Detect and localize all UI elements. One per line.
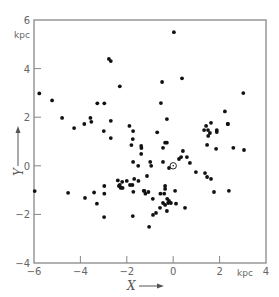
data-point [205, 175, 209, 179]
data-point [118, 84, 122, 88]
data-point [185, 155, 189, 159]
data-point [241, 91, 245, 95]
x-axis-arrowhead-icon [157, 284, 164, 289]
data-point [174, 202, 178, 206]
axis-ticks [34, 69, 220, 263]
data-point [143, 189, 147, 193]
data-point [163, 203, 167, 207]
data-point [102, 184, 106, 188]
data-point [33, 189, 37, 193]
data-point [121, 186, 125, 190]
data-point [136, 164, 140, 168]
x-tick-label: 0 [170, 266, 176, 277]
x-axis-title: X [126, 279, 164, 293]
data-point [145, 174, 149, 178]
data-point [162, 192, 166, 196]
data-point [180, 76, 184, 80]
data-point [202, 128, 206, 132]
data-point [226, 122, 230, 126]
y-axis-arrowhead-icon [16, 126, 21, 133]
y-tick-label: 2 [24, 112, 30, 123]
data-point [109, 59, 113, 63]
data-point [131, 214, 135, 218]
data-point [102, 129, 106, 133]
data-point [72, 126, 76, 130]
data-point [95, 202, 99, 206]
data-point [109, 136, 113, 140]
data-point [205, 143, 209, 147]
data-point [158, 206, 162, 210]
data-point [163, 187, 167, 191]
y-tick-label: 4 [24, 64, 30, 75]
data-point [215, 130, 219, 134]
data-point [203, 171, 207, 175]
data-point [161, 146, 165, 150]
y-tick-label: 6 [24, 15, 30, 26]
data-point [188, 161, 192, 165]
data-point [204, 124, 208, 128]
data-point [132, 177, 136, 181]
sun-symbol-icon [170, 163, 176, 169]
data-point [131, 137, 135, 141]
data-point [37, 92, 41, 96]
data-point [183, 206, 187, 210]
data-point [139, 144, 143, 148]
data-point [131, 160, 135, 164]
data-point [149, 164, 153, 168]
data-point [151, 197, 155, 201]
data-point [151, 213, 155, 217]
y-unit-label: kpc [14, 30, 30, 40]
x-tick-label: 2 [216, 266, 222, 277]
data-point [172, 30, 176, 34]
x-tick-label: −4 [73, 266, 88, 277]
data-point [116, 179, 120, 183]
data-point [223, 110, 227, 114]
data-point [60, 116, 64, 120]
x-tick-label: −2 [119, 266, 134, 277]
data-point [137, 179, 141, 183]
y-tick-label: −2 [15, 209, 30, 220]
data-point [109, 119, 113, 123]
x-tick-label: 4 [263, 266, 269, 277]
data-point [163, 141, 167, 145]
data-point [206, 134, 210, 138]
data-point [95, 101, 99, 105]
data-point [118, 183, 122, 187]
data-point [148, 160, 152, 164]
data-point [66, 191, 70, 195]
data-point [83, 196, 87, 200]
y-axis-title: Y [12, 126, 26, 176]
data-point [209, 121, 213, 125]
data-point [173, 189, 177, 193]
data-point [125, 179, 129, 183]
data-point [89, 116, 93, 120]
data-point [92, 191, 96, 195]
data-point [131, 183, 135, 187]
scatter-chart: −6−4−2024−4−20246 kpc kpc Y X [0, 0, 279, 297]
data-point [231, 146, 235, 150]
data-point [102, 101, 106, 105]
y-tick-label: −4 [15, 258, 30, 269]
y-axis-label: Y [12, 167, 26, 176]
data-point [159, 101, 163, 105]
data-point [155, 130, 159, 134]
data-point [214, 147, 218, 151]
data-point [127, 124, 131, 128]
data-point [130, 143, 134, 147]
data-point [89, 120, 93, 124]
data-points [33, 30, 246, 228]
data-point [102, 192, 106, 196]
data-point [139, 152, 143, 156]
data-point [120, 180, 124, 184]
data-point [165, 209, 169, 213]
data-point [131, 129, 135, 133]
data-point [212, 190, 216, 194]
data-point [194, 170, 198, 174]
x-unit-label: kpc [237, 268, 253, 278]
data-point [160, 80, 164, 84]
data-point [161, 160, 165, 164]
data-point [209, 177, 213, 181]
data-point [177, 157, 181, 161]
data-point [102, 215, 106, 219]
data-point [165, 117, 169, 121]
